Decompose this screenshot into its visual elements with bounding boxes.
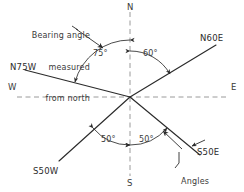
angle-label-75: 75° (93, 49, 108, 59)
bearing-label-n60e: N60E (200, 33, 223, 43)
bearing-label-s50w: S50W (33, 166, 58, 176)
bearing-diagram: N S E W N60E N75W S50E S50W 75° 60° 50° … (0, 0, 244, 192)
leader-south-note (163, 131, 182, 149)
leader-south-tick (175, 152, 179, 168)
angle-label-60: 60° (143, 49, 158, 59)
annotation-north-line-3: from north (12, 94, 90, 105)
angle-label-50-west: 50° (101, 135, 116, 145)
leader-s50e (192, 140, 205, 146)
annotation-south: Angles measured from south (181, 156, 243, 192)
annotation-north: Bearing angle measured from north (12, 10, 90, 126)
annotation-north-line-1: Bearing angle (12, 31, 90, 42)
cardinal-label-south: S (127, 178, 133, 188)
cardinal-label-north: N (127, 2, 134, 12)
annotation-south-line-1: Angles (181, 177, 243, 188)
cardinal-label-east: E (231, 82, 237, 92)
angle-label-50-east: 50° (139, 135, 154, 145)
annotation-north-line-2: measured (12, 63, 90, 74)
bearing-line-s50e (130, 97, 200, 155)
